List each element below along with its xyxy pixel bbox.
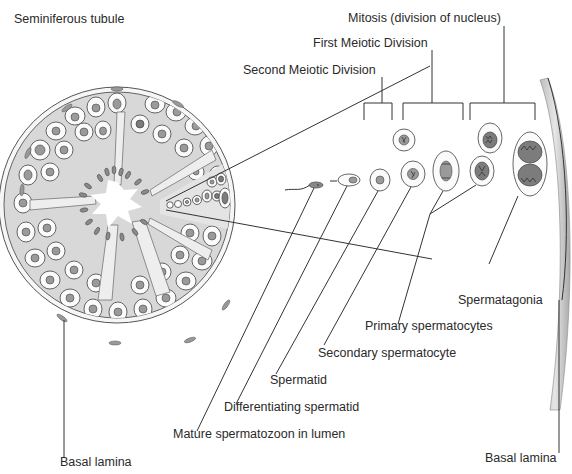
label-primary-spermatocytes: Primary spermatocytes <box>365 319 493 333</box>
label-first-meiotic-division: First Meiotic Division <box>313 36 428 50</box>
spermatogonium-dividing-cell <box>513 132 547 196</box>
cell-stages <box>285 123 547 196</box>
label-secondary-spermatocyte: Secondary spermatocyte <box>318 346 456 360</box>
title-seminiferous-tubule: Seminiferous tubule <box>14 12 124 26</box>
basal-lamina-band <box>540 78 570 410</box>
label-spermatagonia: Spermatagonia <box>458 293 543 307</box>
label-spermatid: Spermatid <box>270 373 327 387</box>
label-second-meiotic-division: Second Meiotic Division <box>243 63 376 77</box>
label-basal-lamina-right: Basal lamina <box>485 451 557 465</box>
secondary-spermatocyte-cells <box>393 129 425 187</box>
differentiating-spermatid-cell <box>330 174 360 186</box>
label-mature-spermatozoon: Mature spermatozoon in lumen <box>173 427 345 441</box>
primary-spermatocyte-cells <box>470 123 502 186</box>
label-mitosis: Mitosis (division of nucleus) <box>348 11 501 25</box>
spermatozoon-cell <box>285 182 323 190</box>
spermatid-cell <box>370 169 390 191</box>
label-basal-lamina-left: Basal lamina <box>60 455 132 469</box>
label-differentiating-spermatid: Differentiating spermatid <box>224 400 359 414</box>
primary-spermatocyte-dividing-cell <box>433 151 459 191</box>
